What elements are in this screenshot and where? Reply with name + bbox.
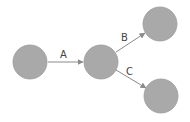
node-bottom-right [144, 79, 178, 113]
edge-label-b: B [121, 32, 128, 43]
edge-label-a: A [60, 49, 67, 60]
node-middle [84, 45, 118, 79]
node-top-right [143, 7, 177, 41]
edge-label-c: C [126, 66, 133, 77]
graph-diagram: A B C [0, 0, 190, 122]
node-source [13, 45, 47, 79]
